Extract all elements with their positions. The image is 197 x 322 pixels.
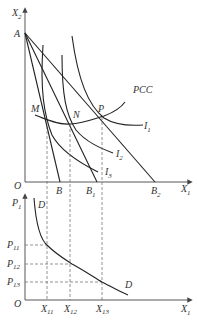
demand-curve: [34, 198, 128, 295]
x1-axis-label-upper: X1: [180, 183, 191, 197]
point-b1-label: B1: [86, 185, 96, 199]
indifference-curve-i3: [42, 45, 98, 172]
p11-label: P11: [6, 239, 20, 252]
p13-label: P13: [6, 276, 21, 289]
x2-axis-label: X2: [11, 7, 22, 21]
point-b-label: B: [56, 185, 62, 196]
x12-label: X12: [63, 303, 78, 316]
x13-label: X13: [95, 303, 110, 316]
lower-panel: P1 D D P11 P12 P13 O X11 X12 X13 X1: [6, 196, 191, 317]
indifference-curve-i1: [72, 36, 143, 125]
i3-label: I3: [104, 166, 112, 180]
origin-label-lower: O: [14, 298, 21, 309]
i2-label: I2: [115, 148, 123, 162]
point-m-label: M: [30, 103, 40, 114]
pcc-label: PCC: [132, 84, 153, 95]
point-b2-label: B2: [151, 185, 161, 199]
x11-label: X11: [40, 303, 54, 316]
p12-label: P12: [6, 258, 21, 271]
origin-label-upper: O: [14, 180, 21, 191]
x1-axis-label-lower: X1: [180, 303, 191, 317]
point-a-label: A: [13, 28, 21, 39]
point-p-label: P: [97, 103, 104, 114]
p1-axis-label: P1: [11, 197, 22, 211]
price-consumption-diagram: X2 A O X1 B B1 B2 M N P PCC I1 I2 I3 P1 …: [0, 0, 197, 322]
i1-label: I1: [143, 120, 151, 134]
demand-label-bottom: D: [124, 279, 133, 290]
demand-label-top: D: [37, 199, 46, 210]
upper-panel: X2 A O X1 B B1 B2 M N P PCC I1 I2 I3: [11, 7, 191, 300]
pcc-curve: [35, 102, 125, 124]
point-n-label: N: [72, 109, 81, 120]
